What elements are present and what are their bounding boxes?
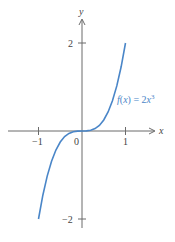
x-tick-label-0: 0 [74,136,79,147]
x-tick-label-1: 1 [123,136,128,147]
y-tick-label-neg2: −2 [62,214,73,225]
x-axis-label: x [158,125,164,136]
y-tick-label-2: 2 [68,38,73,49]
y-axis-label: y [78,6,84,17]
function-label: f(x) = 2x3 [117,93,155,106]
cubic-function-plot: x y −1 0 1 2 −2 f(x) = 2x3 [0,0,175,242]
x-tick-label-neg1: −1 [32,136,43,147]
